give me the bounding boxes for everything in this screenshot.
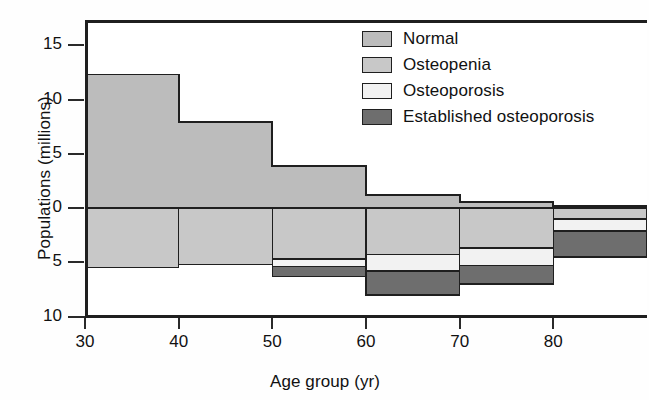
x-tick-label: 30	[65, 332, 105, 352]
area-osteopenia-bin-5	[460, 208, 554, 248]
y-tick-label: 10	[22, 89, 62, 109]
area-osteoporosis-bin-4	[366, 255, 460, 271]
plot-frame-bottom	[85, 315, 647, 318]
legend-item: Normal	[362, 26, 594, 52]
x-tick-label: 50	[252, 332, 292, 352]
legend-swatch-4	[362, 109, 392, 125]
chart-figure: Populations (millions) 151050510 3040506…	[0, 0, 649, 400]
x-tick-label: 40	[159, 332, 199, 352]
y-tick-mark	[68, 153, 84, 155]
area-established-osteoporosis-bin-3	[272, 267, 366, 277]
area-osteopenia-bin-6	[553, 208, 647, 219]
legend-swatch-3	[362, 83, 392, 99]
area-osteoporosis-bin-3	[272, 259, 366, 267]
y-tick-mark	[68, 316, 84, 318]
legend-item: Established osteoporosis	[362, 104, 594, 130]
legend-swatch-1	[362, 31, 392, 47]
area-osteoporosis-bin-6	[553, 219, 647, 231]
area-established-osteoporosis-bin-4	[366, 271, 460, 295]
y-tick-mark	[68, 99, 84, 101]
legend-label: Established osteoporosis	[403, 107, 594, 127]
y-tick-label: 5	[22, 143, 62, 163]
x-axis-title: Age group (yr)	[85, 372, 565, 392]
x-tick-label: 70	[440, 332, 480, 352]
legend-swatch-2	[362, 57, 392, 73]
area-osteopenia-bin-3	[272, 208, 366, 259]
x-tick-label: 80	[533, 332, 573, 352]
area-established-osteoporosis-bin-5	[460, 266, 554, 284]
area-osteopenia-bin-2	[179, 208, 273, 264]
chart-legend: NormalOsteopeniaOsteoporosisEstablished …	[362, 26, 594, 130]
plot-frame-left	[85, 20, 88, 318]
y-tick-label: 5	[22, 251, 62, 271]
x-tick-label: 60	[346, 332, 386, 352]
y-tick-label: 0	[22, 197, 62, 217]
legend-label: Normal	[403, 29, 458, 49]
legend-item: Osteopenia	[362, 52, 594, 78]
y-tick-mark	[68, 44, 84, 46]
legend-item: Osteoporosis	[362, 78, 594, 104]
y-tick-label: 10	[22, 306, 62, 326]
area-osteopenia-bin-1	[85, 208, 179, 268]
plot-frame-top	[85, 20, 647, 23]
area-osteoporosis-bin-5	[460, 248, 554, 265]
area-osteopenia-bin-4	[366, 208, 460, 255]
legend-label: Osteopenia	[403, 55, 491, 75]
legend-label: Osteoporosis	[403, 81, 504, 101]
y-tick-label: 15	[22, 34, 62, 54]
y-tick-mark	[68, 261, 84, 263]
y-tick-mark	[68, 207, 84, 209]
area-established-osteoporosis-bin-6	[553, 231, 647, 257]
